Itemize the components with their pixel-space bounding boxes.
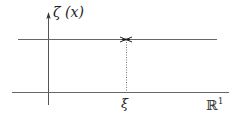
diagram-graphics — [0, 0, 240, 117]
real-numbers-symbol: ℝ — [206, 97, 218, 113]
diagram-canvas: ζ (x) ξ ℝ1 — [0, 0, 240, 117]
dimension-superscript: 1 — [218, 96, 224, 106]
marker-label: ξ — [121, 96, 128, 111]
y-axis-label: ζ (x) — [53, 4, 84, 20]
x-axis-label: ℝ1 — [206, 96, 223, 113]
